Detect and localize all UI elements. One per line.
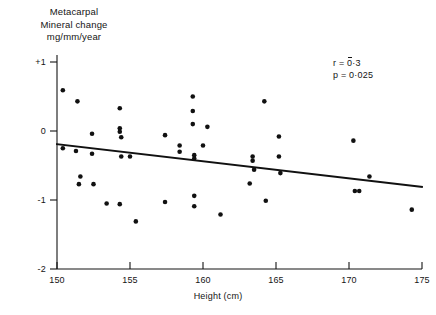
data-point <box>163 133 168 138</box>
regression-line-group <box>57 144 422 187</box>
data-point <box>190 109 195 114</box>
y-tick-label: -2 <box>38 264 46 274</box>
data-point <box>250 154 255 159</box>
data-point <box>357 189 362 194</box>
y-tick-label: -1 <box>38 195 46 205</box>
data-point <box>104 201 109 206</box>
data-point <box>90 151 95 156</box>
data-point <box>247 181 252 186</box>
data-point <box>61 88 66 93</box>
data-point <box>190 122 195 127</box>
data-point <box>77 182 82 187</box>
x-tick-label: 150 <box>49 275 65 285</box>
data-point <box>192 204 197 209</box>
data-point <box>117 202 122 207</box>
data-points-group <box>61 88 415 224</box>
data-point <box>192 194 197 199</box>
data-point <box>263 198 268 203</box>
regression-line <box>57 144 422 187</box>
data-point <box>75 99 80 104</box>
y-tick-label: +1 <box>35 57 46 67</box>
data-point <box>250 158 255 163</box>
x-tick-label: 170 <box>341 275 357 285</box>
data-point <box>205 125 210 130</box>
data-point <box>177 143 182 148</box>
data-point <box>119 154 124 159</box>
axes-group <box>57 55 422 269</box>
data-point <box>117 129 122 134</box>
data-point <box>409 207 414 212</box>
data-point <box>163 200 168 205</box>
figure-root: Metacarpal Mineral change mg/mm/year r =… <box>0 0 436 315</box>
data-point <box>78 174 83 179</box>
scatter-plot-canvas: +10-1-2 150155160165170175 <box>0 0 436 315</box>
data-point <box>218 212 223 217</box>
data-point <box>190 94 195 99</box>
x-tick-label: 165 <box>268 275 284 285</box>
data-point <box>61 146 66 151</box>
data-point <box>277 134 282 139</box>
data-point <box>262 99 267 104</box>
data-point <box>353 189 358 194</box>
data-point <box>74 149 79 154</box>
x-tick-label: 175 <box>414 275 430 285</box>
data-point <box>90 131 95 136</box>
data-point <box>119 135 124 140</box>
data-point <box>277 154 282 159</box>
data-point <box>278 171 283 176</box>
y-ticks-group: +10-1-2 <box>35 57 57 274</box>
data-point <box>117 106 122 111</box>
x-tick-label: 160 <box>195 275 211 285</box>
data-point <box>367 174 372 179</box>
data-point <box>201 143 206 148</box>
data-point <box>128 154 133 159</box>
x-tick-label: 155 <box>122 275 138 285</box>
data-point <box>91 182 96 187</box>
data-point <box>177 149 182 154</box>
y-tick-label: 0 <box>41 126 46 136</box>
data-point <box>351 138 356 143</box>
data-point <box>134 219 139 224</box>
x-ticks-group: 150155160165170175 <box>49 262 430 285</box>
